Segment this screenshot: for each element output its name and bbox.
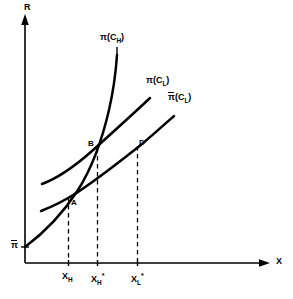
diagram-canvas bbox=[0, 0, 293, 299]
x-tick-label-xl-star: XL* bbox=[131, 272, 144, 286]
pi-bar-intercept-label: π bbox=[11, 241, 18, 250]
curve-label-pi-ch-args: (C bbox=[107, 32, 117, 42]
curve-label-pi-cl-pi: π bbox=[146, 75, 153, 85]
curve-label-pi-bar-cl: π(CL) bbox=[168, 93, 191, 104]
x-axis-label: X bbox=[276, 257, 282, 266]
point-label-b: B bbox=[88, 140, 94, 148]
curve-label-pi-bar-cl-pi: π bbox=[168, 93, 175, 102]
pi-bar-intercept-glyph: π bbox=[11, 241, 18, 250]
curve-label-pi-cl-close: ) bbox=[166, 75, 169, 85]
x-tick-label-xl-star-sup: * bbox=[141, 271, 144, 280]
curve-pi-bar-cl bbox=[41, 116, 174, 211]
x-tick-label-xh-star: XH* bbox=[91, 272, 105, 286]
curve-label-pi-ch-close: ) bbox=[121, 32, 124, 42]
x-tick-label-xh: XH bbox=[62, 272, 73, 283]
y-axis bbox=[21, 14, 29, 263]
curve-label-pi-cl: π(CL) bbox=[146, 76, 169, 87]
point-label-a: A bbox=[71, 199, 77, 207]
curve-label-pi-ch: π(CH) bbox=[100, 33, 124, 44]
curve-label-pi-cl-args: (C bbox=[153, 75, 163, 85]
y-axis-label: R bbox=[24, 3, 31, 12]
curve-pi-cl bbox=[42, 98, 150, 184]
x-tick-label-xh-star-sup: * bbox=[102, 271, 105, 280]
economics-diagram-figure: R X π π(CH) π(CL) π(CL) A B D XH XH* XL* bbox=[0, 0, 293, 299]
x-axis bbox=[25, 259, 270, 267]
curve-pi-ch bbox=[25, 55, 117, 247]
x-tick-label-xh-sub: H bbox=[68, 276, 73, 283]
curve-label-pi-bar-cl-args: (C bbox=[175, 92, 185, 102]
curve-label-pi-ch-pi: π bbox=[100, 32, 107, 42]
point-label-d: D bbox=[139, 139, 145, 147]
curve-label-pi-bar-cl-close: ) bbox=[188, 92, 191, 102]
